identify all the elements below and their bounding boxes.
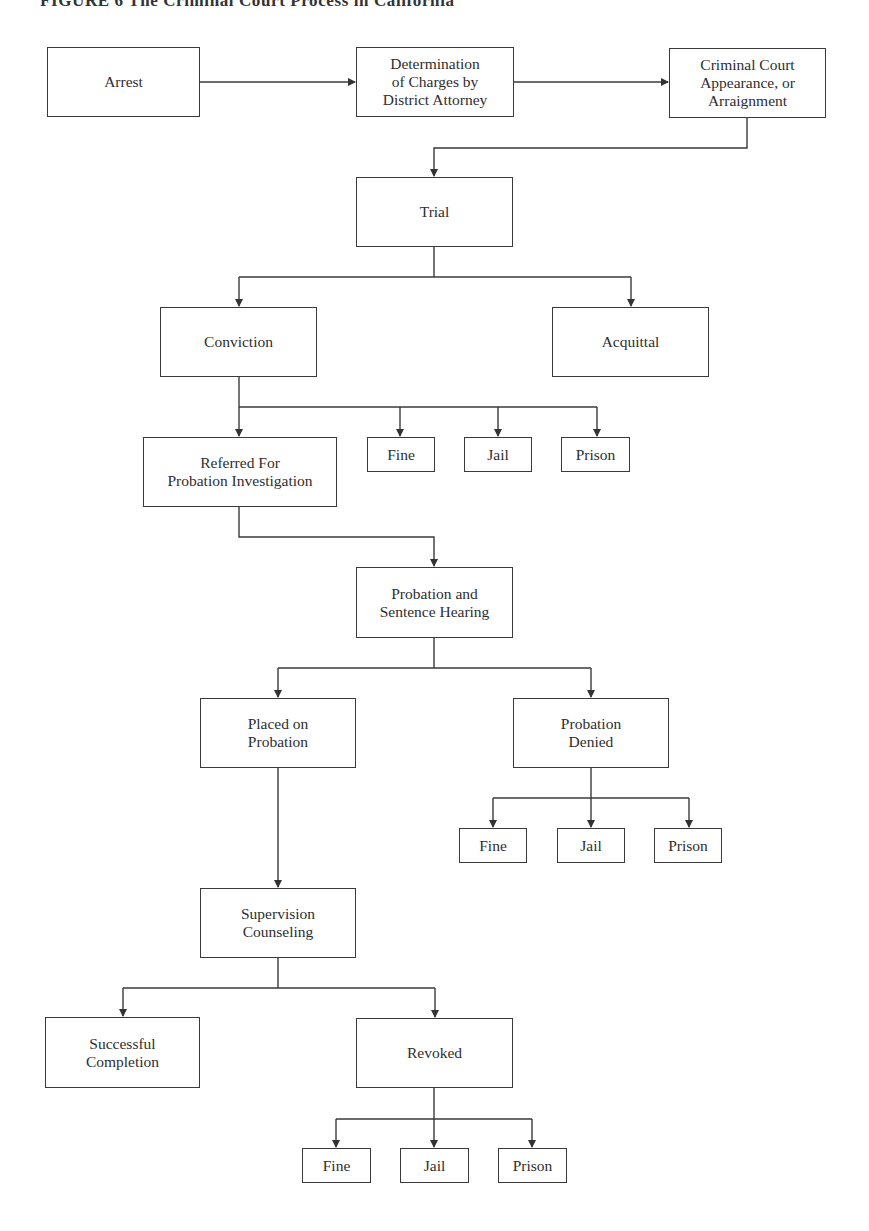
node-label: Probation Denied xyxy=(561,715,621,751)
node-label: Revoked xyxy=(407,1044,462,1062)
node-label: Fine xyxy=(323,1157,351,1175)
node-label: Jail xyxy=(424,1157,446,1175)
node-arraignment: Criminal Court Appearance, or Arraignmen… xyxy=(669,48,826,118)
node-revoked: Revoked xyxy=(356,1018,513,1088)
node-revoked-prison: Prison xyxy=(498,1148,567,1183)
node-denied-fine: Fine xyxy=(459,828,527,863)
node-denied-jail: Jail xyxy=(557,828,625,863)
node-conviction: Conviction xyxy=(160,307,317,377)
node-label: Acquittal xyxy=(602,333,660,351)
node-label: Placed on Probation xyxy=(248,715,309,751)
node-determination-of-charges: Determination of Charges by District Att… xyxy=(356,47,514,117)
node-probation-sentence-hearing: Probation and Sentence Hearing xyxy=(356,567,513,638)
node-label: Referred For Probation Investigation xyxy=(167,454,312,490)
node-placed-on-probation: Placed on Probation xyxy=(200,698,356,768)
node-label: Jail xyxy=(487,446,509,464)
node-conviction-fine: Fine xyxy=(367,437,435,472)
node-label: Conviction xyxy=(204,333,273,351)
node-label: Fine xyxy=(479,837,507,855)
node-conviction-prison: Prison xyxy=(561,437,630,472)
node-referred-for-probation-investigation: Referred For Probation Investigation xyxy=(143,437,337,507)
node-label: Prison xyxy=(513,1157,553,1175)
node-label: Arrest xyxy=(104,73,143,91)
node-arrest: Arrest xyxy=(47,47,200,117)
node-denied-prison: Prison xyxy=(654,828,722,863)
node-label: Determination of Charges by District Att… xyxy=(383,55,488,109)
node-label: Fine xyxy=(387,446,415,464)
node-label: Criminal Court Appearance, or Arraignmen… xyxy=(700,56,795,110)
node-label: Successful Completion xyxy=(86,1035,159,1071)
node-trial: Trial xyxy=(356,177,513,247)
node-supervision-counseling: Supervision Counseling xyxy=(200,888,356,958)
node-label: Prison xyxy=(576,446,616,464)
node-acquittal: Acquittal xyxy=(552,307,709,377)
node-label: Trial xyxy=(420,203,450,221)
node-label: Jail xyxy=(580,837,602,855)
node-conviction-jail: Jail xyxy=(464,437,532,472)
node-probation-denied: Probation Denied xyxy=(513,698,669,768)
node-label: Supervision Counseling xyxy=(241,905,315,941)
node-revoked-fine: Fine xyxy=(302,1148,371,1183)
node-label: Probation and Sentence Hearing xyxy=(380,585,490,621)
node-label: Prison xyxy=(668,837,708,855)
node-revoked-jail: Jail xyxy=(400,1148,469,1183)
node-successful-completion: Successful Completion xyxy=(45,1017,200,1088)
